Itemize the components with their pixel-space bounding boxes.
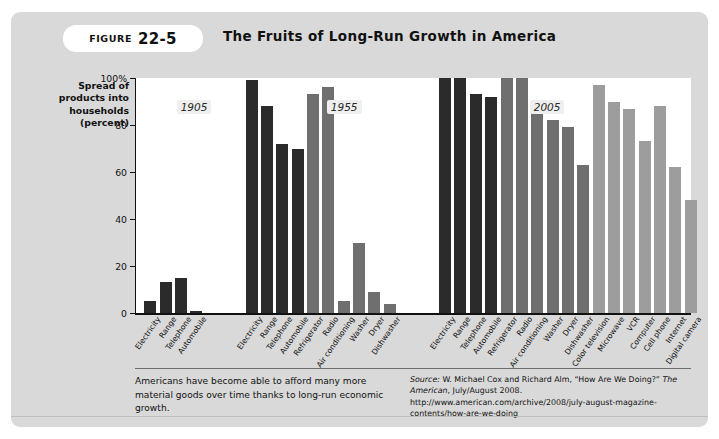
y-axis-labels: 100%806040200 xyxy=(11,78,135,313)
figure-title: The Fruits of Long-Run Growth in America xyxy=(223,28,556,44)
bar xyxy=(593,85,605,313)
year-group-label: 1955 xyxy=(327,100,362,114)
source-text-1: W. Michael Cox and Richard Alm, “How Are… xyxy=(440,375,663,384)
bar xyxy=(276,144,288,313)
bar xyxy=(307,94,319,313)
bar xyxy=(190,311,202,313)
bar xyxy=(454,78,466,313)
y-tick-label: 60 xyxy=(115,167,127,178)
bars-layer xyxy=(135,78,691,313)
bar xyxy=(608,102,620,314)
figure-caption: Americans have become able to afford man… xyxy=(135,375,397,416)
y-tick-label: 0 xyxy=(121,308,127,319)
y-tick-label: 40 xyxy=(115,214,127,225)
bar xyxy=(470,94,482,313)
bar xyxy=(246,80,258,313)
figure-badge-number: 22-5 xyxy=(138,30,177,48)
bar xyxy=(577,165,589,313)
bar xyxy=(439,78,451,313)
figure-badge-word: FIGURE xyxy=(89,33,132,44)
figure-header: FIGURE 22-5 The Fruits of Long-Run Growt… xyxy=(11,25,708,55)
figure-number-badge: FIGURE 22-5 xyxy=(63,25,203,52)
bar xyxy=(562,127,574,313)
bar xyxy=(547,120,559,313)
bar xyxy=(144,301,156,313)
bar xyxy=(322,87,334,313)
bar xyxy=(669,167,681,313)
bar xyxy=(292,149,304,314)
bar xyxy=(485,97,497,313)
bar xyxy=(160,282,172,313)
source-url: http://www.american.com/archive/2008/jul… xyxy=(410,398,657,418)
x-axis-labels: ElectricityRangeTelephoneAutomobileElect… xyxy=(135,315,691,375)
bar xyxy=(338,301,350,313)
source-prefix: Source: xyxy=(410,375,440,384)
bar xyxy=(654,106,666,313)
bar xyxy=(368,292,380,313)
bar xyxy=(261,106,273,313)
bar xyxy=(685,200,697,313)
bar xyxy=(175,278,187,313)
figure-container: FIGURE 22-5 The Fruits of Long-Run Growt… xyxy=(11,12,708,427)
year-group-label: 1905 xyxy=(177,100,212,114)
bar xyxy=(501,78,513,313)
bar xyxy=(639,141,651,313)
bar xyxy=(531,104,543,313)
y-tick-label: 80 xyxy=(115,120,127,131)
source-text-2: , July/August 2008. xyxy=(448,386,523,395)
bar xyxy=(384,304,396,313)
bottom-rule xyxy=(11,416,708,417)
y-tick-label: 20 xyxy=(115,261,127,272)
year-group-label: 2005 xyxy=(530,100,565,114)
note-divider xyxy=(135,368,691,369)
figure-source: Source: W. Michael Cox and Richard Alm, … xyxy=(410,374,692,419)
bar xyxy=(353,243,365,314)
bar xyxy=(623,109,635,313)
bar xyxy=(516,78,528,313)
y-tick-label: 100% xyxy=(100,73,127,84)
